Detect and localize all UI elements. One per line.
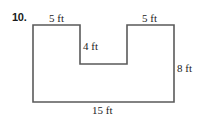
problem-number: 10. bbox=[12, 11, 26, 23]
dimension-label-top-right: 5 ft bbox=[142, 13, 157, 24]
dimension-label-bottom: 15 ft bbox=[92, 105, 112, 116]
figure-canvas: 10. 5 ft 5 ft 4 ft 8 ft 15 ft bbox=[0, 0, 206, 125]
u-shape-outline bbox=[33, 25, 174, 102]
dimension-label-right-side: 8 ft bbox=[177, 63, 192, 74]
dimension-label-top-left: 5 ft bbox=[49, 13, 64, 24]
dimension-label-notch-depth: 4 ft bbox=[83, 41, 98, 52]
